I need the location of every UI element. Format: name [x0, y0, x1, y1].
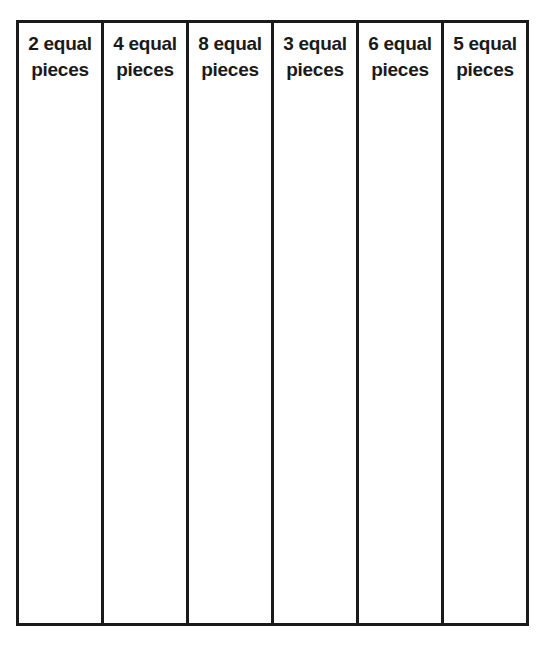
column-header-line1: 2 equal [28, 31, 91, 57]
column-header-line1: 6 equal [368, 31, 431, 57]
column-header-line2: pieces [116, 57, 173, 83]
column-header-line2: pieces [201, 57, 258, 83]
column-header-line2: pieces [286, 57, 343, 83]
column-header-line1: 8 equal [198, 31, 261, 57]
strip-column-4: 4 equal pieces [104, 23, 189, 623]
column-header-line1: 3 equal [283, 31, 346, 57]
column-header-line1: 4 equal [113, 31, 176, 57]
column-header-line2: pieces [31, 57, 88, 83]
strip-column-8: 8 equal pieces [189, 23, 274, 623]
column-header-line2: pieces [456, 57, 513, 83]
strip-column-2: 2 equal pieces [19, 23, 104, 623]
column-header-line1: 5 equal [453, 31, 516, 57]
strip-column-6: 6 equal pieces [359, 23, 444, 623]
strip-column-3: 3 equal pieces [274, 23, 359, 623]
strip-column-5: 5 equal pieces [444, 23, 526, 623]
column-header-line2: pieces [371, 57, 428, 83]
fraction-strips-table: 2 equal pieces 4 equal pieces 8 equal pi… [16, 20, 529, 626]
